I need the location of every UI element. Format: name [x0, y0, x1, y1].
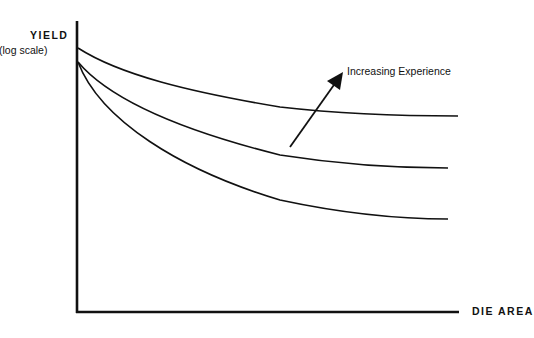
y-axis-label: YIELD	[30, 29, 68, 41]
curve-high-experience	[78, 48, 458, 116]
y-axis-scale-note: (log scale)	[0, 44, 47, 56]
curve-low-experience	[78, 62, 448, 219]
arrow-head-icon	[327, 72, 343, 90]
yield-vs-die-area-diagram: YIELD (log scale) DIE AREA Increasing Ex…	[0, 0, 534, 338]
experience-arrow-shaft	[290, 82, 336, 147]
x-axis-label: DIE AREA	[472, 305, 534, 317]
annotation-label: Increasing Experience	[347, 65, 451, 77]
diagram-canvas	[0, 0, 534, 338]
